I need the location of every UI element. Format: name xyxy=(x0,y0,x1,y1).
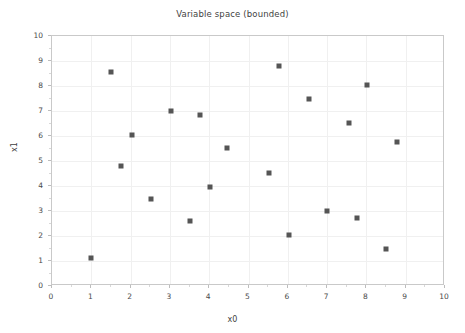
x-tick-label: 1 xyxy=(80,292,100,301)
x-tick-mark xyxy=(248,285,249,288)
x-axis-label: x0 xyxy=(0,315,465,324)
x-tick-label: 4 xyxy=(198,292,218,301)
x-tick-label: 2 xyxy=(120,292,140,301)
x-tick-mark-minor xyxy=(228,285,229,287)
x-tick-mark xyxy=(405,285,406,288)
x-tick-label: 5 xyxy=(238,292,258,301)
x-tick-mark xyxy=(365,285,366,288)
x-tick-label: 7 xyxy=(316,292,336,301)
x-tick-mark xyxy=(444,285,445,288)
x-tick-mark xyxy=(326,285,327,288)
x-tick-label: 3 xyxy=(159,292,179,301)
x-tick-mark-minor xyxy=(306,285,307,287)
x-tick-mark-minor xyxy=(149,285,150,287)
scatter-plot-figure: Variable space (bounded) 012345678910 01… xyxy=(0,0,465,333)
x-tick-label: 6 xyxy=(277,292,297,301)
x-tick-mark-minor xyxy=(424,285,425,287)
y-axis-label: x1 xyxy=(10,142,19,152)
x-tick-mark-minor xyxy=(71,285,72,287)
x-tick-mark-minor xyxy=(346,285,347,287)
x-tick-mark xyxy=(287,285,288,288)
x-tick-label: 9 xyxy=(395,292,415,301)
x-tick-mark-minor xyxy=(267,285,268,287)
x-tick-mark xyxy=(208,285,209,288)
x-tick-mark xyxy=(90,285,91,288)
x-axis-ticks: 012345678910 xyxy=(0,0,465,333)
x-tick-mark xyxy=(169,285,170,288)
x-tick-label: 8 xyxy=(355,292,375,301)
x-tick-mark-minor xyxy=(189,285,190,287)
x-tick-mark-minor xyxy=(110,285,111,287)
x-tick-mark xyxy=(130,285,131,288)
x-tick-mark xyxy=(51,285,52,288)
x-tick-mark-minor xyxy=(385,285,386,287)
x-tick-label: 10 xyxy=(434,292,454,301)
x-tick-label: 0 xyxy=(41,292,61,301)
